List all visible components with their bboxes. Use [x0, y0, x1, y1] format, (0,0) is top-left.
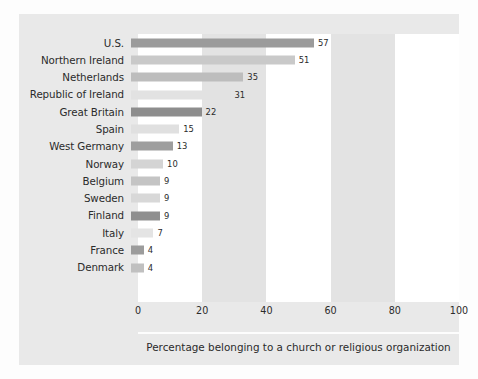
bar-value-label: 9: [164, 211, 169, 219]
bar: [131, 125, 179, 134]
bar-track: 7: [131, 224, 459, 241]
bar-value-label: 13: [177, 142, 188, 150]
category-label: Great Britain: [19, 107, 131, 117]
bar-track: 15: [131, 120, 459, 137]
bar-track: 9: [131, 207, 459, 224]
bar-value-label: 10: [167, 160, 178, 168]
bar-row: Republic of Ireland31: [19, 86, 459, 103]
bar-row: Great Britain22: [19, 103, 459, 120]
bar-track: 31: [131, 86, 459, 103]
bar-value-label: 4: [148, 246, 153, 254]
chart-figure: U.S.57Northern Ireland51Netherlands35Rep…: [0, 0, 478, 379]
category-label: Finland: [19, 210, 131, 220]
bar: [131, 38, 314, 47]
bar-row: Denmark4: [19, 259, 459, 276]
bar-row: Italy7: [19, 224, 459, 241]
bar-track: 4: [131, 259, 459, 276]
bar-row: Netherlands35: [19, 69, 459, 86]
bar-track: 10: [131, 155, 459, 172]
bar-row: Finland9: [19, 207, 459, 224]
category-label: Sweden: [19, 193, 131, 203]
bar: [131, 55, 295, 64]
bar-value-label: 57: [318, 38, 329, 46]
category-label: Belgium: [19, 176, 131, 186]
bar-value-label: 4: [148, 263, 153, 271]
bar-row: Northern Ireland51: [19, 51, 459, 68]
bar: [131, 107, 202, 116]
bar-track: 9: [131, 172, 459, 189]
bar: [131, 228, 153, 237]
category-label: Italy: [19, 228, 131, 238]
category-label: Spain: [19, 124, 131, 134]
bar-row: West Germany13: [19, 138, 459, 155]
category-label: West Germany: [19, 141, 131, 151]
x-tick-label: 80: [389, 306, 401, 316]
bar-row: Norway10: [19, 155, 459, 172]
chart-panel: U.S.57Northern Ireland51Netherlands35Rep…: [19, 14, 459, 365]
bar-row: France4: [19, 242, 459, 259]
bar-rows: U.S.57Northern Ireland51Netherlands35Rep…: [19, 34, 459, 276]
bar-row: Sweden9: [19, 190, 459, 207]
bar: [131, 211, 160, 220]
bar: [131, 159, 163, 168]
bar-value-label: 51: [299, 56, 310, 64]
bar: [131, 177, 160, 186]
bar-value-label: 35: [247, 73, 258, 81]
bar-row: Spain15: [19, 120, 459, 137]
bar-value-label: 22: [206, 108, 217, 116]
x-tick-label: 20: [196, 306, 208, 316]
bar-track: 4: [131, 242, 459, 259]
x-tick-label: 40: [260, 306, 272, 316]
category-label: U.S.: [19, 38, 131, 48]
category-label: France: [19, 245, 131, 255]
x-tick-label: 0: [135, 306, 141, 316]
category-label: Denmark: [19, 262, 131, 272]
caption-divider: [138, 332, 459, 334]
bar-track: 51: [131, 51, 459, 68]
bar: [131, 263, 144, 272]
bar: [131, 194, 160, 203]
chart-caption: Percentage belonging to a church or reli…: [138, 341, 459, 353]
bar: [131, 142, 173, 151]
category-label: Norway: [19, 159, 131, 169]
category-label: Republic of Ireland: [19, 89, 131, 99]
bar-track: 57: [131, 34, 459, 51]
bar-row: U.S.57: [19, 34, 459, 51]
category-label: Northern Ireland: [19, 55, 131, 65]
bar-track: 35: [131, 69, 459, 86]
category-label: Netherlands: [19, 72, 131, 82]
bar: [131, 246, 144, 255]
bar-value-label: 9: [164, 177, 169, 185]
bar-track: 13: [131, 138, 459, 155]
x-axis: 020406080100: [138, 306, 459, 322]
bar-track: 9: [131, 190, 459, 207]
bar: [131, 90, 231, 99]
bar: [131, 73, 243, 82]
bar-value-label: 9: [164, 194, 169, 202]
bar-value-label: 7: [157, 229, 162, 237]
bar-track: 22: [131, 103, 459, 120]
bar-value-label: 31: [235, 90, 246, 98]
x-tick-label: 100: [450, 306, 468, 316]
bar-value-label: 15: [183, 125, 194, 133]
x-tick-label: 60: [324, 306, 336, 316]
bar-row: Belgium9: [19, 172, 459, 189]
